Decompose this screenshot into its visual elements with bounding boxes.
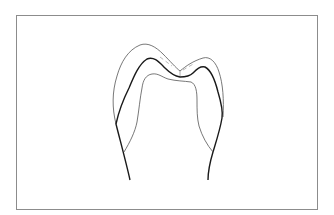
outer-enamel-outline — [113, 44, 223, 124]
dentinoenamel-junction — [116, 58, 222, 180]
tooth-diagram — [0, 0, 334, 215]
pulp-outline — [124, 74, 213, 152]
